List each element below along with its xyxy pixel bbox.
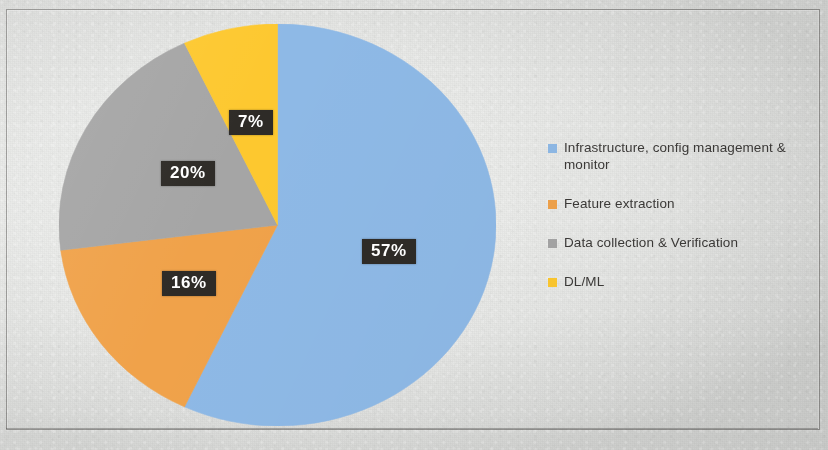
legend-swatch-dl-ml bbox=[548, 278, 557, 287]
legend-item-label: Data collection & Verification bbox=[564, 234, 738, 251]
data-label-dl-ml: 7% bbox=[229, 110, 273, 135]
legend-item-label: DL/ML bbox=[564, 273, 604, 290]
data-label-feature-extraction: 16% bbox=[162, 271, 216, 296]
chart-screenshot: Infrastructure, config management & moni… bbox=[0, 0, 828, 450]
pie-slice-group: Infrastructure, config management & moni… bbox=[59, 24, 496, 426]
legend-item[interactable]: Infrastructure, config management & moni… bbox=[548, 139, 816, 173]
legend-item[interactable]: Feature extraction bbox=[548, 195, 816, 212]
legend-item-label: Infrastructure, config management & moni… bbox=[564, 139, 816, 173]
data-label-infrastructure: 57% bbox=[362, 239, 416, 264]
page-border-bottom bbox=[6, 428, 818, 429]
chart-legend: Infrastructure, config management & moni… bbox=[548, 139, 816, 312]
legend-item[interactable]: DL/ML bbox=[548, 273, 816, 290]
data-label-data-collection: 20% bbox=[161, 161, 215, 186]
legend-swatch-infrastructure bbox=[548, 144, 557, 153]
pie-chart-svg: Infrastructure, config management & moni… bbox=[59, 24, 496, 426]
legend-item-label: Feature extraction bbox=[564, 195, 675, 212]
legend-swatch-feature-extraction bbox=[548, 200, 557, 209]
legend-item[interactable]: Data collection & Verification bbox=[548, 234, 816, 251]
pie-chart: Infrastructure, config management & moni… bbox=[59, 24, 496, 426]
legend-swatch-data-collection bbox=[548, 239, 557, 248]
